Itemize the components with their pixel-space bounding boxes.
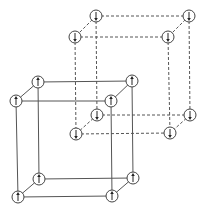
spin-node-up xyxy=(106,190,118,202)
dashed-lattice-edge xyxy=(76,133,170,134)
solid-lattice-edge xyxy=(39,178,133,179)
solid-lattice-edge xyxy=(16,101,18,197)
solid-lattice-edge xyxy=(132,81,133,178)
spin-node-up xyxy=(105,95,117,107)
dashed-lattice-edge xyxy=(168,37,170,133)
dashed-lattice-edge xyxy=(75,37,76,134)
solid-lattice-edge xyxy=(111,101,112,196)
solid-lattice-edge xyxy=(18,196,112,197)
spin-node-up xyxy=(12,191,24,203)
spin-node-down xyxy=(183,10,195,22)
spin-node-up xyxy=(33,173,45,185)
solid-lattice-edge xyxy=(38,81,132,82)
spin-node-down xyxy=(90,10,102,22)
spin-node-down xyxy=(162,31,174,43)
lattice-diagram xyxy=(0,0,208,213)
spin-node-down xyxy=(164,127,176,139)
spin-node-down xyxy=(91,109,103,121)
solid-lattice-edge xyxy=(38,82,39,179)
dashed-lattice-edge xyxy=(96,16,97,115)
spin-node-up xyxy=(126,75,138,87)
spin-node-down xyxy=(69,31,81,43)
spin-node-down xyxy=(70,128,82,140)
spin-node-up xyxy=(10,95,22,107)
spin-node-up xyxy=(127,172,139,184)
edges-layer xyxy=(16,16,190,197)
spin-node-up xyxy=(32,76,44,88)
dashed-lattice-edge xyxy=(189,16,190,115)
spin-node-down xyxy=(184,109,196,121)
